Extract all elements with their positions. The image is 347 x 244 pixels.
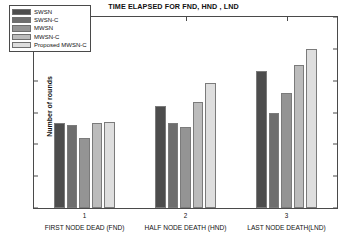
bar-proposed-mwsn-c-group-1 — [104, 122, 115, 208]
bar-mwsn-c-group-1 — [92, 123, 103, 208]
bar-swsn-group-1 — [54, 123, 65, 208]
x-category-label: LAST NODE DEATH(LND) — [222, 224, 347, 231]
legend-swatch-icon — [12, 25, 31, 31]
legend-item-label: MWSN — [34, 24, 53, 32]
y-axis-label: Number of rounds — [46, 47, 53, 167]
bar-mwsn-group-1 — [79, 138, 90, 208]
bar-swsn-group-3 — [256, 71, 267, 208]
y-tick-mark-right — [333, 17, 337, 18]
y-tick-mark — [34, 144, 38, 145]
y-tick-mark-right — [333, 112, 337, 113]
chart-figure: TIME ELAPSED FOR FND, HND , LND Number o… — [0, 0, 347, 244]
x-tick-number: 3 — [257, 212, 317, 219]
bar-mwsn-group-3 — [281, 93, 292, 208]
legend-swatch-icon — [12, 17, 31, 23]
bar-swsn-c-group-3 — [269, 113, 280, 209]
bar-mwsn-c-group-3 — [294, 65, 305, 208]
legend-item-mwsn: MWSN — [12, 24, 87, 32]
y-tick-mark-right — [333, 176, 337, 177]
legend-item-mwsn-c: MWSN-C — [12, 33, 87, 41]
bar-swsn-c-group-1 — [67, 125, 78, 208]
y-tick-mark — [34, 112, 38, 113]
bar-swsn-group-2 — [155, 106, 166, 209]
y-tick-mark — [34, 208, 38, 209]
x-tick-number: 1 — [55, 212, 115, 219]
x-tick-number: 2 — [156, 212, 216, 219]
legend-item-label: SWSN — [34, 8, 52, 16]
y-tick-mark-right — [333, 208, 337, 209]
y-tick-mark-right — [333, 144, 337, 145]
legend-item-swsn-c: SWSN-C — [12, 16, 87, 24]
chart-legend: SWSNSWSN-CMWSNMWSN-CProposed MWSN-C — [9, 5, 91, 52]
bar-proposed-mwsn-c-group-3 — [306, 49, 317, 208]
x-tick-mark-top — [186, 17, 187, 21]
y-tick-mark-right — [333, 48, 337, 49]
legend-swatch-icon — [12, 42, 31, 48]
legend-item-label: Proposed MWSN-C — [34, 41, 87, 49]
legend-swatch-icon — [12, 34, 31, 40]
legend-item-swsn: SWSN — [12, 8, 87, 16]
x-tick-mark-top — [287, 17, 288, 21]
y-tick-mark — [34, 80, 38, 81]
legend-swatch-icon — [12, 9, 31, 15]
y-tick-mark-right — [333, 80, 337, 81]
bar-proposed-mwsn-c-group-2 — [205, 83, 216, 208]
bar-mwsn-group-2 — [180, 127, 191, 208]
legend-item-proposed-mwsn-c: Proposed MWSN-C — [12, 41, 87, 49]
bar-swsn-c-group-2 — [168, 123, 179, 208]
bar-mwsn-c-group-2 — [193, 102, 204, 208]
legend-item-label: MWSN-C — [34, 33, 59, 41]
y-tick-mark — [34, 176, 38, 177]
legend-item-label: SWSN-C — [34, 16, 58, 24]
